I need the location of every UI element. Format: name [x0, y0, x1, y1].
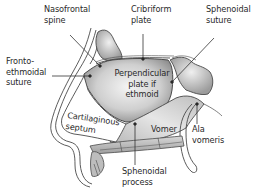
label-cribriform-plate: Cribriform plate [131, 4, 171, 25]
label-sphenoidal-process: Sphenoidal process [122, 166, 167, 187]
label-vomer: Vomer [151, 124, 177, 135]
label-ala-vomeris: Ala vomeris [192, 124, 224, 145]
label-perpendicular-plate: Perpendicular plate if ethmoid [107, 68, 177, 100]
label-sphenoidal-suture: Sphenoidal suture [206, 4, 251, 25]
label-frontoethmoidal-suture: Fronto- ethmoidal suture [6, 56, 46, 88]
nasal-septum-diagram: Nasofrontal spine Cribriform plate Sphen… [0, 0, 254, 192]
frontal-sinus [96, 30, 122, 61]
label-nasofrontal-spine: Nasofrontal spine [44, 4, 90, 25]
